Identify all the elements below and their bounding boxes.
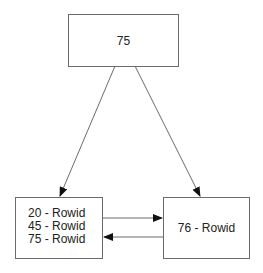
root-node: 75 [68, 14, 179, 67]
edge-root-to-left-leaf [60, 66, 115, 196]
root-node-label: 75 [69, 35, 178, 48]
left-leaf-node: 20 - Rowid 45 - Rowid 75 - Rowid [15, 197, 103, 259]
left-leaf-line-3: 75 - Rowid [28, 233, 85, 246]
right-leaf-label: 76 - Rowid [164, 222, 249, 235]
right-leaf-node: 76 - Rowid [163, 197, 250, 259]
edge-root-to-right-leaf [135, 66, 200, 196]
